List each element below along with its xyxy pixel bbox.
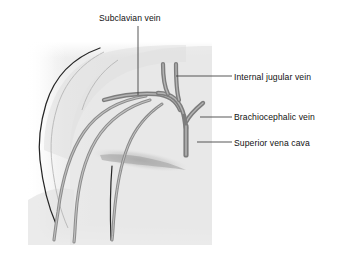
anatomy-illustration (0, 0, 351, 256)
label-subclavian-vein: Subclavian vein (99, 13, 161, 23)
label-superior-vena-cava: Superior vena cava (234, 138, 310, 148)
anatomical-diagram: Subclavian vein Internal jugular vein Br… (0, 0, 351, 256)
label-internal-jugular-vein: Internal jugular vein (234, 72, 311, 82)
label-brachiocephalic-vein: Brachiocephalic vein (234, 112, 315, 122)
